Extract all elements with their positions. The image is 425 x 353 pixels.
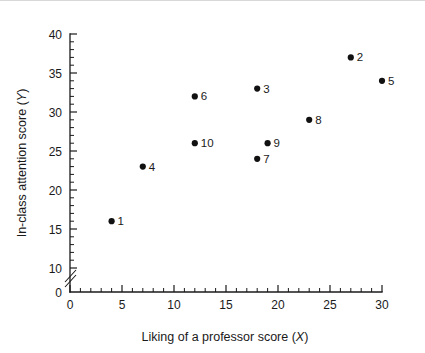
x-tick-label-0: 0 bbox=[67, 298, 74, 312]
data-point-marker-2 bbox=[348, 54, 354, 60]
data-point-9: 9 bbox=[265, 137, 281, 149]
axis-variable: X bbox=[295, 330, 305, 344]
y-tick-label-25: 25 bbox=[49, 145, 63, 159]
data-point-5: 5 bbox=[379, 75, 395, 87]
y-axis-tick-labels: 010152025303540 bbox=[49, 28, 63, 300]
y-tick-label-30: 30 bbox=[49, 106, 63, 120]
data-point-label-5: 5 bbox=[388, 75, 394, 87]
x-tick-label-30: 30 bbox=[375, 298, 389, 312]
axis-variable: Y bbox=[15, 91, 29, 101]
y-tick-label-0: 0 bbox=[55, 286, 62, 300]
data-point-marker-6 bbox=[192, 93, 198, 99]
data-point-8: 8 bbox=[306, 114, 322, 126]
data-point-label-10: 10 bbox=[201, 137, 214, 149]
data-point-label-6: 6 bbox=[201, 90, 207, 102]
y-tick-label-15: 15 bbox=[49, 223, 63, 237]
data-point-marker-5 bbox=[379, 78, 385, 84]
data-point-label-9: 9 bbox=[274, 137, 280, 149]
data-point-marker-8 bbox=[306, 117, 312, 123]
data-point-marker-10 bbox=[192, 140, 198, 146]
data-point-marker-4 bbox=[140, 164, 146, 170]
x-axis-title: Liking of a professor score (X) bbox=[142, 330, 309, 344]
x-axis-tick-labels: 051015202530 bbox=[67, 298, 389, 312]
y-tick-label-10: 10 bbox=[49, 262, 63, 276]
data-point-series: 14610739825 bbox=[109, 51, 395, 227]
data-point-label-4: 4 bbox=[149, 161, 156, 173]
y-tick-label-35: 35 bbox=[49, 67, 63, 81]
scatter-plot-figure: 010152025303540 051015202530 14610739825… bbox=[0, 0, 425, 353]
y-axis-title: In-class attention score (Y) bbox=[15, 89, 29, 238]
x-tick-label-5: 5 bbox=[119, 298, 126, 312]
x-axis-ticks bbox=[70, 285, 382, 292]
x-tick-label-15: 15 bbox=[219, 298, 233, 312]
x-tick-label-25: 25 bbox=[323, 298, 337, 312]
data-point-marker-7 bbox=[254, 156, 260, 162]
scatter-plot-canvas: 010152025303540 051015202530 14610739825… bbox=[0, 0, 425, 353]
top-border-rule bbox=[0, 0, 425, 1]
data-point-marker-3 bbox=[254, 86, 260, 92]
y-axis-ticks bbox=[70, 34, 77, 268]
data-point-label-1: 1 bbox=[118, 215, 124, 227]
plot-axes bbox=[65, 34, 382, 292]
data-point-10: 10 bbox=[192, 137, 214, 149]
data-point-7: 7 bbox=[254, 153, 270, 165]
data-point-1: 1 bbox=[109, 215, 125, 227]
data-point-label-7: 7 bbox=[263, 153, 269, 165]
data-point-6: 6 bbox=[192, 90, 208, 102]
data-point-label-2: 2 bbox=[357, 51, 363, 63]
y-tick-label-40: 40 bbox=[49, 28, 63, 42]
data-point-2: 2 bbox=[348, 51, 364, 63]
y-tick-label-20: 20 bbox=[49, 184, 63, 198]
data-point-label-8: 8 bbox=[315, 114, 321, 126]
data-point-3: 3 bbox=[254, 83, 270, 95]
data-point-marker-9 bbox=[265, 140, 271, 146]
data-point-marker-1 bbox=[109, 218, 115, 224]
x-tick-label-20: 20 bbox=[271, 298, 285, 312]
x-tick-label-10: 10 bbox=[167, 298, 181, 312]
data-point-4: 4 bbox=[140, 161, 156, 173]
data-point-label-3: 3 bbox=[263, 83, 269, 95]
